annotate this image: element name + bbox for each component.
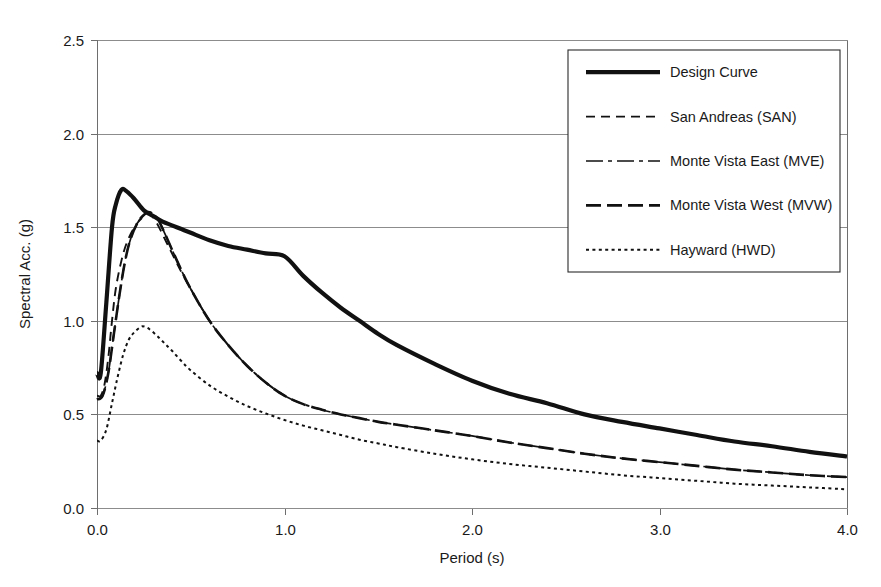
x-tick-label: 2.0 [462,521,483,538]
chart-canvas: 0.00.51.01.52.02.5 0.01.02.03.04.0 Spect… [0,0,881,587]
x-axis-title: Period (s) [439,549,504,566]
x-tick-label: 4.0 [837,521,858,538]
y-tick-label: 0.5 [63,406,84,423]
y-axis-title: Spectral Acc. (g) [16,219,33,329]
legend-label: Monte Vista West (MVW) [670,197,832,213]
legend-label: Monte Vista East (MVE) [670,153,824,169]
y-tick-label: 0.0 [63,500,84,517]
spectral-acceleration-chart: 0.00.51.01.52.02.5 0.01.02.03.04.0 Spect… [0,0,881,587]
x-tick-label: 0.0 [87,521,108,538]
x-tick-label: 3.0 [650,521,671,538]
legend: Design CurveSan Andreas (SAN)Monte Vista… [568,50,840,272]
y-tick-label: 1.5 [63,219,84,236]
y-tick-label: 2.0 [63,126,84,143]
legend-label: Hayward (HWD) [670,242,776,258]
legend-label: Design Curve [670,64,758,80]
x-tick-label: 1.0 [275,521,296,538]
legend-label: San Andreas (SAN) [670,109,797,125]
y-tick-label: 1.0 [63,313,84,330]
y-tick-label: 2.5 [63,32,84,49]
